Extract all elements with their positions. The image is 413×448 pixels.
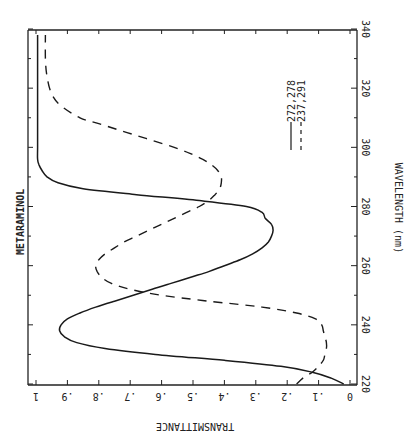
transmittance-tick-label: .2 — [281, 391, 293, 402]
transmittance-tick-label: .6 — [156, 391, 168, 402]
legend: 272,278 237,291 — [286, 80, 307, 150]
wavelength-tick-label: 280 — [360, 197, 371, 215]
x-axis-title: WAVELENGTH (nm) — [393, 163, 404, 253]
wavelength-tick-label: 220 — [360, 375, 371, 393]
chart-title: METARAMINOL — [15, 189, 26, 255]
transmittance-tick-label: .1 — [313, 391, 325, 402]
series-237-291-dashed — [45, 35, 326, 384]
transmittance-tick-label: .8 — [93, 391, 105, 402]
transmittance-tick-label: 1 — [33, 391, 39, 402]
spectrum-chart: 2202402602803003203400.1.2.3.4.5.6.7.8.9… — [0, 0, 413, 448]
transmittance-tick-label: 0 — [347, 391, 353, 402]
y-axis-title: TRANSMITTANCE — [156, 421, 234, 432]
plot-frame — [28, 30, 357, 385]
wavelength-tick-label: 260 — [360, 257, 371, 275]
wavelength-tick-label: 340 — [360, 20, 371, 38]
transmittance-tick-label: .5 — [187, 391, 199, 402]
wavelength-tick-label: 300 — [360, 138, 371, 156]
transmittance-tick-label: .9 — [61, 391, 73, 402]
wavelength-tick-label: 320 — [360, 79, 371, 97]
transmittance-tick-label: .3 — [250, 391, 262, 402]
transmittance-tick-label: .4 — [218, 391, 230, 402]
axis-ticks — [28, 29, 357, 385]
legend-dash-label: 237,291 — [296, 80, 307, 122]
transmittance-tick-label: .7 — [124, 391, 136, 402]
wavelength-tick-label: 240 — [360, 316, 371, 334]
